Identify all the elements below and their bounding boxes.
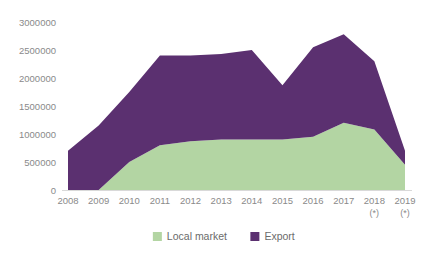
x-axis-tick-label: 2009 xyxy=(88,195,109,206)
x-axis-tick-label: 2011 xyxy=(150,195,170,206)
x-axis-tick-label: 2017 xyxy=(333,195,354,206)
x-axis-tick-label: 2015 xyxy=(272,195,293,206)
x-axis-tick-label: 2013 xyxy=(211,195,232,206)
x-axis-tick-label: 2010 xyxy=(119,195,140,206)
x-axis-tick-note: (*) xyxy=(370,208,380,218)
x-axis-tick-label: 2012 xyxy=(180,195,201,206)
y-axis-tick-label: 1000000 xyxy=(19,129,56,140)
x-axis-tick-label: 2008 xyxy=(57,195,78,206)
x-axis-tick-label: 2019 xyxy=(394,195,415,206)
legend-label-export: Export xyxy=(264,230,294,242)
x-axis-tick-label: 2016 xyxy=(303,195,324,206)
area-chart: 0500000100000015000002000000250000030000… xyxy=(0,0,434,254)
chart-legend: Local marketExport xyxy=(153,230,295,242)
legend-swatch-local-market xyxy=(153,232,162,241)
x-axis-tick-label: 2018 xyxy=(364,195,385,206)
y-axis-tick-label: 2000000 xyxy=(19,73,56,84)
y-axis-tick-label: 1500000 xyxy=(19,101,56,112)
legend-swatch-export xyxy=(250,232,259,241)
x-axis-tick-label: 2014 xyxy=(241,195,262,206)
x-axis-tick-note: (*) xyxy=(400,208,410,218)
chart-canvas: 0500000100000015000002000000250000030000… xyxy=(0,0,434,254)
y-axis-tick-label: 2500000 xyxy=(19,45,56,56)
y-axis-tick-label: 500000 xyxy=(24,157,56,168)
y-axis-tick-label: 0 xyxy=(51,185,56,196)
y-axis-tick-label: 3000000 xyxy=(19,17,56,28)
legend-label-local-market: Local market xyxy=(167,230,227,242)
